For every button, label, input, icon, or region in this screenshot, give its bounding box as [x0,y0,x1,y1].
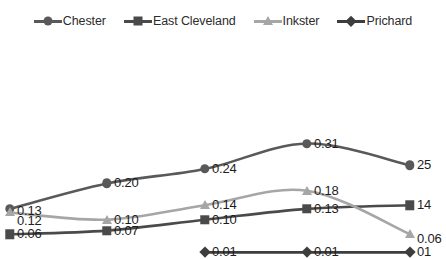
data-label: 0.18 [314,183,339,198]
data-label: 25 [417,157,431,172]
legend-marker-diamond-icon [337,14,365,28]
legend-item-east-cleveland[interactable]: East Cleveland [124,14,236,28]
legend-label: Chester [63,14,106,28]
legend-item-chester[interactable]: Chester [34,14,106,28]
legend-label: East Cleveland [153,14,236,28]
legend-label: Inkster [283,14,320,28]
plot-area: 0.130.200.240.31250.060.070.100.13140.12… [0,34,446,259]
data-label: 0.20 [114,175,139,190]
chart-legend: ChesterEast ClevelandInksterPrichard [0,8,446,34]
line-chart: ChesterEast ClevelandInksterPrichard 0.1… [0,0,446,259]
legend-item-prichard[interactable]: Prichard [337,14,412,28]
data-label: 01 [417,244,431,259]
legend-marker-triangle-icon [254,14,282,28]
legend-marker-square-icon [124,14,152,28]
data-label: 0.10 [212,212,237,227]
data-label: 0.06 [17,226,42,241]
data-label: 0.01 [314,244,339,259]
legend-label: Prichard [366,14,412,28]
data-label: 14 [417,197,431,212]
data-label: 0.14 [212,197,237,212]
data-label: 0.01 [212,244,237,259]
legend-item-inkster[interactable]: Inkster [254,14,320,28]
data-label: 0.13 [314,201,339,216]
data-label: 0.12 [17,213,42,228]
data-label: 0.24 [212,161,237,176]
legend-marker-circle-icon [34,14,62,28]
data-label: 0.10 [114,212,139,227]
data-label: 0.31 [314,136,339,151]
